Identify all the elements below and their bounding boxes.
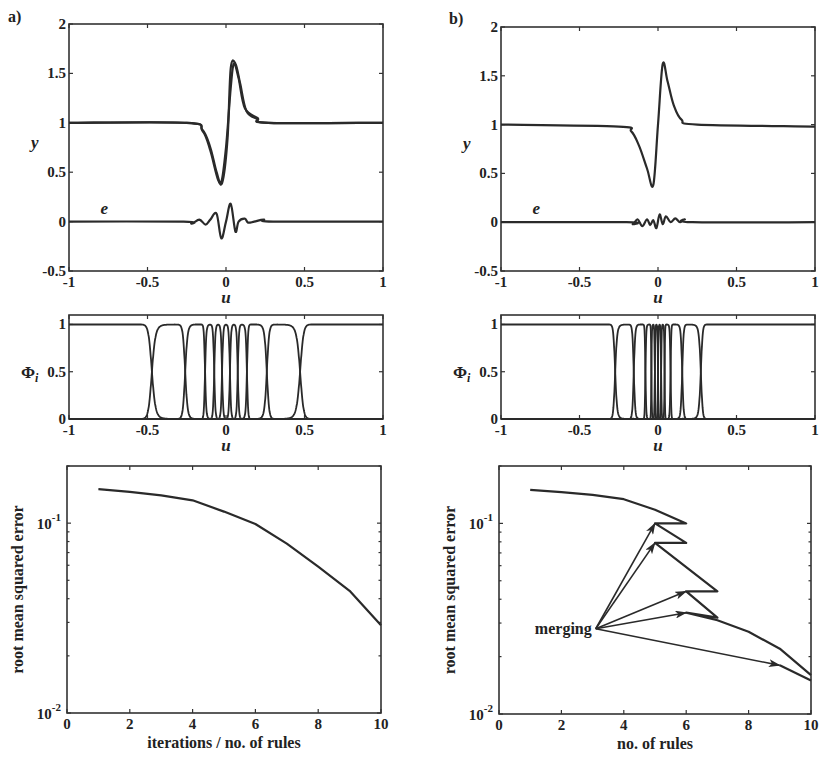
merging-arrow [596, 523, 655, 628]
membership-function-curve [69, 325, 383, 419]
x-tick-label: -0.5 [568, 422, 592, 438]
x-tick-label: 4 [189, 716, 197, 732]
rmse-curve [98, 489, 381, 625]
membership-function-curve [69, 325, 383, 419]
membership-function-curve [501, 325, 815, 419]
x-tick-label: 8 [314, 716, 322, 732]
plot-frame [67, 466, 381, 713]
plot-frame [499, 466, 811, 714]
x-tick-label: 4 [620, 717, 628, 733]
y-tick-label: 10-2 [37, 701, 62, 722]
plot-frame [69, 315, 383, 419]
x-tick-label: 0 [63, 716, 71, 732]
output-curve [69, 60, 383, 184]
plot-b-output-and-error: -1-0.500.51-0.500.511.52uye [461, 19, 819, 307]
merging-arrow [596, 613, 686, 629]
y-tick-label: 10-1 [469, 511, 493, 532]
membership-function-curve [69, 325, 383, 420]
y-tick-label: 1 [491, 316, 499, 332]
x-axis-label: no. of rules [617, 735, 693, 752]
output-curve [501, 62, 815, 187]
error-label: e [532, 199, 540, 218]
y-tick-label: 0.5 [479, 165, 498, 181]
x-axis-label: iterations / no. of rules [147, 734, 300, 751]
error-label: e [100, 199, 108, 218]
x-tick-label: 2 [558, 717, 566, 733]
membership-function-curve [69, 325, 383, 420]
plot-a-membership-functions: -1-0.500.5100.51uΦi [21, 315, 387, 455]
y-tick-label: 0 [491, 214, 499, 230]
panel-label-a: a) [8, 8, 21, 26]
y-tick-label: 10-2 [469, 702, 494, 723]
merging-annotation: merging [535, 620, 592, 638]
y-tick-label: 0.5 [47, 164, 66, 180]
x-tick-label: 10 [804, 717, 819, 733]
plot-a-output-and-error: -1-0.500.51-0.500.511.52uye [29, 16, 387, 307]
plot-b-membership-functions: -1-0.500.5100.51uΦi [453, 315, 819, 455]
plot-a-rmse-vs-iterations: 024681010-210-1iterations / no. of rules… [9, 466, 389, 751]
y-axis-label: root mean squared error [9, 505, 27, 673]
x-tick-label: 6 [682, 717, 690, 733]
membership-function-curve [69, 325, 383, 419]
y-tick-label: 0.5 [47, 364, 66, 380]
figure-canvas: a) b) -1-0.500.51-0.500.511.52uye -1-0.5… [0, 0, 830, 773]
membership-function-curve [69, 325, 383, 419]
y-tick-label: 1 [59, 316, 67, 332]
y-tick-label: 0 [59, 411, 67, 427]
x-tick-label: -0.5 [136, 422, 160, 438]
x-tick-label: -0.5 [568, 274, 592, 290]
membership-function-curve [69, 325, 383, 420]
x-tick-label: 0.5 [727, 274, 746, 290]
y-tick-label: 1.5 [479, 68, 498, 84]
x-tick-label: 10 [374, 716, 389, 732]
x-tick-label: 1 [379, 274, 387, 290]
plot-b-rmse-vs-rules: 024681010-210-1no. of rulesroot mean squ… [441, 466, 819, 752]
x-axis-label: u [653, 436, 662, 455]
y-axis-label: y [461, 134, 471, 153]
x-tick-label: 1 [811, 422, 819, 438]
y-tick-label: 0 [491, 411, 499, 427]
membership-function-curve [69, 325, 383, 419]
error-curve [501, 214, 815, 228]
x-tick-label: 0.5 [295, 422, 314, 438]
y-tick-label: 0 [59, 214, 67, 230]
x-tick-label: 0.5 [295, 274, 314, 290]
x-axis-label: u [653, 288, 662, 307]
rmse-curve [530, 490, 811, 675]
y-axis-label: y [29, 133, 39, 152]
x-tick-label: 2 [126, 716, 134, 732]
y-tick-label: 0.5 [479, 364, 498, 380]
plot-frame [501, 27, 815, 271]
x-tick-label: 8 [745, 717, 753, 733]
x-tick-label: 6 [252, 716, 260, 732]
x-tick-label: 0.5 [727, 422, 746, 438]
y-axis-label: Φi [21, 363, 39, 385]
y-tick-label: 1 [491, 117, 499, 133]
x-tick-label: 1 [379, 422, 387, 438]
rmse-curve-secondary [780, 665, 811, 680]
x-tick-label: 1 [811, 274, 819, 290]
y-tick-label: 2 [491, 19, 499, 35]
y-tick-label: -0.5 [474, 263, 498, 279]
y-tick-label: 2 [59, 16, 67, 32]
y-tick-label: 1.5 [47, 65, 66, 81]
y-tick-label: 1 [59, 115, 67, 131]
x-axis-label: u [221, 288, 230, 307]
y-tick-label: 10-1 [37, 511, 61, 532]
membership-function-curve [69, 325, 383, 420]
y-axis-label: root mean squared error [441, 506, 459, 674]
y-axis-label: Φi [453, 363, 471, 385]
error-curve [69, 204, 383, 239]
membership-function-curve [69, 325, 383, 420]
y-tick-label: -0.5 [42, 263, 66, 279]
panel-label-b: b) [449, 10, 463, 28]
x-tick-label: 0 [495, 717, 503, 733]
membership-function-curve [69, 325, 383, 420]
x-axis-label: u [221, 436, 230, 455]
x-tick-label: -0.5 [136, 274, 160, 290]
